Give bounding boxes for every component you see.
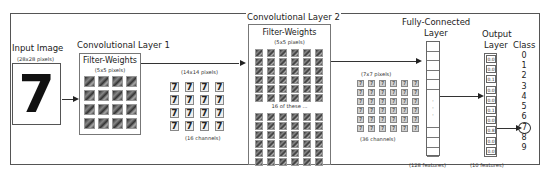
feature-map-tile: 7 bbox=[379, 98, 386, 105]
input-title: Input Image bbox=[12, 43, 63, 53]
filter-tile bbox=[279, 131, 287, 139]
feature-map-tile: 7 bbox=[412, 125, 419, 132]
output-value: 0.0 bbox=[486, 116, 496, 124]
filter-tile bbox=[303, 122, 311, 130]
filter-tile bbox=[279, 158, 287, 166]
feature-map-tile: 7 bbox=[412, 89, 419, 96]
conv1-channels: (16 channels) bbox=[185, 135, 221, 141]
feature-map-tile: 7 bbox=[170, 108, 179, 118]
fc-neuron bbox=[427, 61, 439, 71]
filter-tile bbox=[98, 118, 109, 129]
feature-map-tile: 7 bbox=[170, 82, 179, 92]
feature-map-tile: 7 bbox=[390, 125, 397, 132]
filter-tile bbox=[315, 49, 323, 57]
feature-map-tile: 7 bbox=[390, 89, 397, 96]
fc-neuron bbox=[427, 80, 439, 90]
fc-title-line1: Fully-Connected bbox=[402, 17, 470, 27]
feature-map-tile: 7 bbox=[368, 89, 375, 96]
filter-tile bbox=[315, 67, 323, 75]
filter-tile bbox=[291, 149, 299, 157]
arrow-fc-output bbox=[440, 96, 479, 97]
feature-map-tile: 7 bbox=[185, 121, 194, 131]
output-value: 0.8 bbox=[486, 126, 496, 134]
filter-tile bbox=[255, 122, 263, 130]
output-value: 0.0 bbox=[486, 55, 496, 63]
fc-neuron bbox=[427, 128, 439, 138]
filter-tile bbox=[279, 76, 287, 84]
feature-map-tile: 7 bbox=[401, 107, 408, 114]
filter-tile bbox=[291, 158, 299, 166]
filter-tile bbox=[84, 118, 95, 129]
filter-tile bbox=[255, 113, 263, 121]
feature-map-tile: 7 bbox=[200, 121, 209, 131]
filter-tile bbox=[303, 94, 311, 102]
output-value: 0.0 bbox=[486, 65, 496, 73]
filter-tile bbox=[267, 113, 275, 121]
fc-ellipsis: · bbox=[432, 97, 434, 104]
output-value: 0.0 bbox=[486, 137, 496, 145]
conv2-output-size: (7x7 pixels) bbox=[361, 71, 391, 77]
feature-map-tile: 7 bbox=[401, 80, 408, 87]
class-label: 9 bbox=[518, 143, 530, 152]
output-value: 0.1 bbox=[486, 106, 496, 114]
filter-tile bbox=[315, 76, 323, 84]
filter-tile bbox=[84, 76, 95, 87]
filter-tile bbox=[291, 49, 299, 57]
filter-tile bbox=[267, 85, 275, 93]
filter-tile bbox=[303, 158, 311, 166]
filter-tile bbox=[255, 58, 263, 66]
filter-tile bbox=[279, 85, 287, 93]
filter-tile bbox=[255, 158, 263, 166]
filter-tile bbox=[291, 76, 299, 84]
filter-tile bbox=[126, 118, 137, 129]
conv2-filter-subtitle: (5x5 pixels) bbox=[249, 39, 330, 45]
filter-tile bbox=[291, 113, 299, 121]
filter-tile bbox=[255, 85, 263, 93]
conv1-title: Convolutional Layer 1 bbox=[77, 40, 170, 50]
feature-map-tile: 7 bbox=[215, 121, 224, 131]
filter-tile bbox=[112, 90, 123, 101]
filter-tile bbox=[112, 104, 123, 115]
feature-map-tile: 7 bbox=[412, 116, 419, 123]
feature-map-tile: 7 bbox=[401, 116, 408, 123]
feature-map-tile: 7 bbox=[379, 80, 386, 87]
feature-map-tile: 7 bbox=[357, 98, 364, 105]
filter-tile bbox=[291, 94, 299, 102]
filter-tile bbox=[315, 113, 323, 121]
arrow-output-class bbox=[497, 128, 517, 129]
feature-map-tile: 7 bbox=[200, 82, 209, 92]
fc-layer: ··· bbox=[426, 41, 440, 156]
class-title: Class bbox=[513, 40, 535, 50]
filter-tile bbox=[267, 67, 275, 75]
feature-map-tile: 7 bbox=[357, 125, 364, 132]
filter-tile bbox=[315, 131, 323, 139]
filter-tile bbox=[267, 94, 275, 102]
filter-tile bbox=[279, 58, 287, 66]
class-label: 2 bbox=[518, 71, 530, 80]
feature-map-tile: 7 bbox=[401, 125, 408, 132]
filter-tile bbox=[267, 76, 275, 84]
arrow-conv2-fc bbox=[331, 61, 417, 62]
output-value: 0.0 bbox=[486, 86, 496, 94]
class-label: 4 bbox=[518, 92, 530, 101]
filter-tile bbox=[98, 90, 109, 101]
output-value: 0.1 bbox=[486, 75, 496, 83]
filter-tile bbox=[255, 76, 263, 84]
feature-map-tile: 7 bbox=[185, 108, 194, 118]
filter-tile bbox=[315, 58, 323, 66]
arrowhead-icon bbox=[240, 60, 246, 66]
filter-tile bbox=[303, 131, 311, 139]
feature-map-tile: 7 bbox=[215, 95, 224, 105]
class-label: 6 bbox=[518, 112, 530, 121]
filter-tile bbox=[291, 131, 299, 139]
filter-tile bbox=[112, 76, 123, 87]
feature-map-tile: 7 bbox=[390, 98, 397, 105]
filter-tile bbox=[303, 149, 311, 157]
filter-tile bbox=[279, 94, 287, 102]
feature-map-tile: 7 bbox=[412, 80, 419, 87]
filter-tile bbox=[279, 122, 287, 130]
filter-tile bbox=[279, 67, 287, 75]
filter-tile bbox=[267, 140, 275, 148]
filter-tile bbox=[303, 76, 311, 84]
filter-tile bbox=[279, 140, 287, 148]
